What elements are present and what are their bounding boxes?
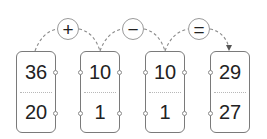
- left-bottom-dot: [208, 111, 213, 116]
- number-card-3: 10 1: [145, 51, 185, 133]
- card-bottom-value: 27: [211, 92, 249, 132]
- card-top-value: 10: [81, 52, 119, 92]
- card-bottom-value: 1: [146, 92, 184, 132]
- right-bottom-dot: [117, 111, 122, 116]
- right-top-dot: [53, 70, 58, 75]
- left-bottom-dot: [78, 111, 83, 116]
- left-bottom-dot: [143, 111, 148, 116]
- number-card-1: 36 20: [16, 51, 56, 133]
- right-top-dot: [182, 70, 187, 75]
- left-top-dot: [78, 70, 83, 75]
- card-top-value: 29: [211, 52, 249, 92]
- card-bottom-value: 20: [17, 92, 55, 132]
- minus-operator: −: [122, 18, 144, 40]
- card-bottom-value: 1: [81, 92, 119, 132]
- card-top-value: 36: [17, 52, 55, 92]
- right-top-dot: [117, 70, 122, 75]
- number-card-2: 10 1: [80, 51, 120, 133]
- left-top-dot: [208, 70, 213, 75]
- right-bottom-dot: [53, 111, 58, 116]
- number-card-4: 29 27: [210, 51, 250, 133]
- plus-operator: +: [57, 18, 79, 40]
- equals-operator: =: [188, 18, 210, 40]
- right-bottom-dot: [182, 111, 187, 116]
- left-top-dot: [143, 70, 148, 75]
- card-top-value: 10: [146, 52, 184, 92]
